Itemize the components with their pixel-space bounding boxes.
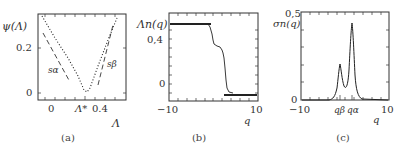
ylabel-a: ψ(Λ) <box>2 20 27 33</box>
caption-b: (b) <box>179 132 219 143</box>
caption-c: (c) <box>323 132 363 143</box>
xlabel-b: q <box>244 115 250 126</box>
xtick-max-c: 10 <box>381 104 394 115</box>
xtick-min-c: −10 <box>289 104 310 115</box>
panel-a: ψ(Λ) 0.2 0 0 Λ* 0.4 Λ sα sβ (a) <box>0 0 133 153</box>
caption-a: (a) <box>48 132 88 143</box>
xtick-q-alpha: qα <box>347 105 359 115</box>
xtick-max: 10 <box>250 104 263 115</box>
panel-c: 0,5 σn(q) 0 −10 10 qβ qα q (c) <box>265 0 398 153</box>
xtick-0.4: 0.4 <box>92 103 108 114</box>
ylabel-c: σn(q) <box>273 18 301 29</box>
xlabel-a: Λ <box>111 117 120 130</box>
ytick-0: 0 <box>159 78 165 89</box>
chart-a: ψ(Λ) 0.2 0 0 Λ* 0.4 Λ sα sβ <box>0 0 133 130</box>
ytick-0.4: 0,4 <box>147 34 163 45</box>
xtick-0: 0 <box>48 103 54 114</box>
xtick-min: −10 <box>157 104 178 115</box>
xlabel-c: q <box>373 114 379 125</box>
ytick-0.2: 0.2 <box>16 42 32 53</box>
ylabel-b: Λn(q) <box>136 18 168 31</box>
label-s-beta: sβ <box>107 59 117 69</box>
xtick-lambda-star: Λ* <box>74 103 87 114</box>
label-s-alpha: sα <box>48 65 59 75</box>
chart-b: Λn(q) 0,4 0 −10 10 q <box>133 0 265 130</box>
panel-b: Λn(q) 0,4 0 −10 10 q (b) <box>133 0 265 153</box>
chart-c: 0,5 σn(q) 0 −10 10 qβ qα q <box>265 0 398 130</box>
ytick-0: 0 <box>26 87 32 98</box>
xtick-q-beta: qβ <box>334 105 345 115</box>
